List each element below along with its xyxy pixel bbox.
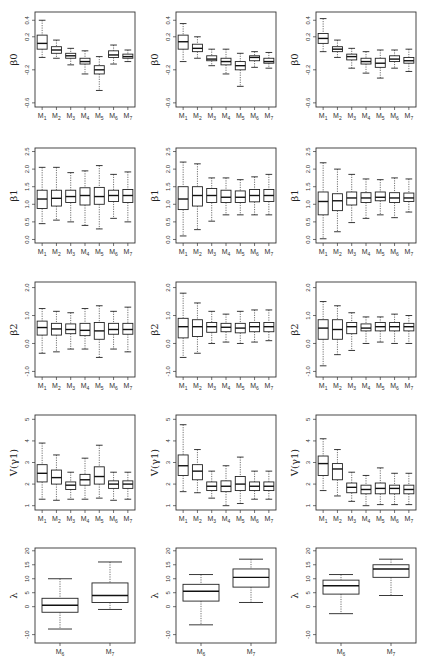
box-M1 (318, 302, 328, 366)
y-axis-label: β1 (8, 189, 19, 201)
x-tick-label: M4 (81, 382, 90, 391)
y-axis-label: V(γ1) (149, 449, 160, 477)
x-tick-label: M2 (52, 382, 61, 391)
box-M1 (37, 309, 47, 354)
y-tick-label: 0.2 (305, 32, 311, 41)
x-tick-label: M4 (362, 515, 371, 524)
x-tick-label: M2 (333, 515, 342, 524)
y-tick-label: -10 (24, 630, 30, 639)
box-M2 (332, 306, 342, 355)
box-M7 (404, 473, 414, 504)
x-tick-label: M2 (193, 112, 202, 121)
box-M2 (332, 169, 342, 232)
box-M7 (233, 559, 269, 602)
y-tick-label: 15 (165, 561, 171, 568)
x-tick-label: M4 (222, 515, 231, 524)
y-axis-label: λ (8, 592, 19, 599)
box-M1 (178, 293, 188, 357)
box-M1 (178, 24, 188, 62)
box-M6 (109, 45, 119, 64)
y-tick-label: 1 (165, 503, 171, 507)
box-M6 (42, 579, 78, 629)
box-M2 (51, 40, 61, 58)
panel-3-1: 12345V(γ1)M1M2M3M4M5M6M7 (149, 415, 276, 524)
y-axis-label: V(γ1) (289, 449, 300, 477)
box-M7 (264, 310, 274, 341)
y-tick-label: 20 (305, 547, 311, 554)
panel-2-2: -1.00.01.02.0β2M1M2M3M4M5M6M7 (289, 282, 416, 391)
y-tick-label: 0.4 (165, 15, 171, 24)
box-M6 (109, 174, 119, 218)
box-M4 (80, 309, 90, 350)
box-M4 (361, 475, 371, 505)
box-M5 (94, 166, 104, 229)
y-tick-label: 5 (305, 417, 311, 421)
box-M4 (221, 178, 231, 215)
x-tick-label: M3 (207, 248, 216, 257)
box-M3 (207, 311, 217, 343)
x-tick-label: M4 (362, 248, 371, 257)
x-tick-label: M2 (52, 515, 61, 524)
x-tick-label: M7 (265, 382, 274, 391)
box-M3 (207, 49, 217, 66)
y-tick-label: -1.0 (305, 366, 311, 377)
box-M1 (318, 163, 328, 239)
x-tick-label: M7 (405, 248, 414, 257)
y-tick-label: 1.5 (305, 182, 311, 191)
x-tick-label: M7 (405, 515, 414, 524)
y-axis-label: β1 (149, 189, 160, 201)
y-tick-label: -0.6 (165, 97, 171, 108)
y-tick-label: 3 (305, 460, 311, 464)
box-M7 (264, 174, 274, 214)
box-M3 (66, 173, 76, 222)
x-tick-label: M7 (124, 112, 133, 121)
y-axis-label: λ (289, 592, 300, 599)
x-tick-label: M1 (319, 515, 328, 524)
x-tick-label: M1 (319, 382, 328, 391)
y-tick-label: 2 (305, 482, 311, 486)
x-tick-label: M1 (179, 382, 188, 391)
box-M6 (323, 575, 359, 614)
box-M2 (192, 303, 202, 353)
box-M6 (250, 310, 260, 342)
y-tick-label: 20 (165, 547, 171, 554)
box-M5 (235, 311, 245, 343)
x-tick-label: M7 (405, 112, 414, 121)
x-tick-label: M6 (197, 648, 206, 657)
box-M3 (347, 48, 357, 68)
x-tick-label: M3 (207, 112, 216, 121)
y-tick-label: 0.2 (165, 32, 171, 41)
x-tick-label: M7 (124, 382, 133, 391)
x-tick-label: M2 (193, 248, 202, 257)
x-tick-label: M5 (236, 112, 245, 121)
y-tick-label: 2 (24, 482, 30, 486)
y-tick-label: 2 (165, 482, 171, 486)
panel-0-2: 0.40.2-0.2-0.6β0M1M2M3M4M5M6M7 (289, 12, 416, 121)
y-axis-label: β2 (8, 323, 19, 335)
y-tick-label: 0 (165, 604, 171, 608)
x-tick-label: M1 (38, 112, 47, 121)
box-M4 (221, 314, 231, 342)
y-tick-label: 0.0 (165, 235, 171, 244)
x-tick-label: M4 (222, 112, 231, 121)
y-tick-label: 5 (24, 590, 30, 594)
box-M6 (390, 314, 400, 343)
x-tick-label: M3 (347, 382, 356, 391)
y-tick-label: 15 (305, 561, 311, 568)
y-tick-label: 0.5 (165, 217, 171, 226)
y-tick-label: 15 (24, 561, 30, 568)
box-M2 (332, 450, 342, 496)
x-tick-label: M6 (390, 515, 399, 524)
box-M4 (361, 317, 371, 344)
box-M6 (109, 472, 119, 500)
y-axis-label: β2 (289, 323, 300, 335)
box-M2 (192, 37, 202, 58)
x-tick-label: M7 (387, 648, 396, 657)
panel-0-0: 0.40.2-0.2-0.6β0M1M2M3M4M5M6M7 (8, 12, 135, 121)
x-tick-label: M3 (347, 112, 356, 121)
box-M5 (375, 317, 385, 342)
y-tick-label: 2.0 (305, 283, 311, 292)
x-tick-label: M5 (376, 515, 385, 524)
y-tick-label: -10 (305, 630, 311, 639)
x-tick-label: M1 (179, 112, 188, 121)
